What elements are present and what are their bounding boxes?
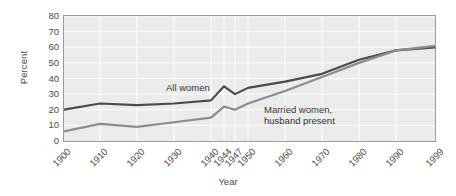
x-tick-label: 1910 [102, 131, 125, 154]
x-tick-label: 1970 [324, 131, 347, 154]
x-tick-label: 1960 [287, 131, 310, 154]
x-axis-ticks: 1900191019201930194019441947195019601970… [0, 0, 456, 196]
x-tick-label: 1999 [438, 131, 456, 154]
x-tick-label: 1980 [361, 131, 384, 154]
chart-figure: Percent 01020304050607080 19001910192019… [0, 0, 456, 196]
x-axis-label: Year [0, 176, 456, 187]
x-tick-label: 1920 [139, 131, 162, 154]
x-tick-label: 1900 [65, 131, 88, 154]
series-annotation-married-women: Married women, husband present [264, 104, 335, 126]
x-tick-label: 1990 [398, 131, 421, 154]
x-tick-label: 1930 [176, 131, 199, 154]
series-annotation-all-women: All women [166, 82, 210, 93]
